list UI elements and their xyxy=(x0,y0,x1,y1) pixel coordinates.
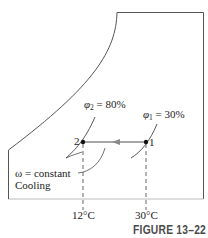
state-point-1 xyxy=(144,140,148,144)
temp-label-30: 30°C xyxy=(135,210,158,221)
arrow-icon xyxy=(112,139,120,145)
omega-constant-label: ω = constant xyxy=(15,168,71,179)
state-point-2 xyxy=(81,140,85,144)
rh-curve-80 xyxy=(66,117,95,158)
leader-omega xyxy=(78,148,105,173)
state-label-1: 1 xyxy=(149,137,155,148)
leader-omega-2 xyxy=(66,152,82,158)
state-label-2: 2 xyxy=(74,136,80,147)
cooling-label: Cooling xyxy=(15,180,50,191)
phi2-label: φ2 = 80% xyxy=(84,99,126,112)
temp-label-12: 12°C xyxy=(72,210,95,221)
saturation-curve xyxy=(9,13,118,151)
figure-caption: FIGURE 13–22 xyxy=(133,223,206,237)
phi1-label: φ1 = 30% xyxy=(143,109,185,122)
